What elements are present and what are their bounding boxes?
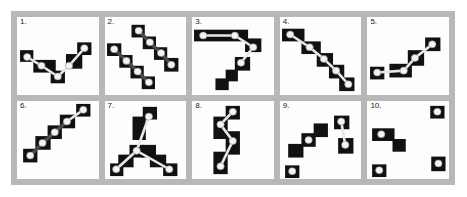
keypoint-node [306, 44, 313, 51]
panel-3[interactable]: 3. [192, 17, 274, 95]
panel-9-scene [280, 101, 362, 179]
keypoint-node [435, 160, 442, 167]
keypoint-node [412, 54, 419, 61]
panel-9[interactable]: 9. [280, 101, 362, 179]
keypoint-node [320, 55, 327, 62]
detection-box [393, 139, 406, 152]
keypoint-node [110, 46, 117, 53]
keypoint-node [341, 141, 348, 148]
panel-6-label: 6. [20, 101, 27, 111]
panel-3-scene [192, 17, 274, 95]
keypoint-node [286, 31, 293, 38]
panel-10-label: 10. [370, 101, 381, 111]
panel-5-scene [367, 17, 449, 95]
keypoint-node [157, 50, 164, 57]
keypoint-node [237, 59, 244, 66]
keypoint-node [400, 67, 407, 74]
panel-6[interactable]: 6. [17, 101, 99, 179]
figure-frame: 1.2.3.4.5.6.7.8.9.10. [11, 11, 455, 185]
keypoint-node [122, 57, 129, 64]
keypoint-node [134, 68, 141, 75]
panel-5-label: 5. [370, 17, 377, 27]
keypoint-node [229, 137, 236, 144]
panel-6-scene [17, 101, 99, 179]
keypoint-node [231, 32, 238, 39]
keypoint-node [39, 139, 46, 146]
keypoint-node [145, 79, 152, 86]
panel-10[interactable]: 10. [367, 101, 449, 179]
keypoint-node [81, 45, 88, 52]
keypoint-node [24, 53, 31, 60]
keypoint-node [434, 108, 441, 115]
keypoint-node [145, 113, 152, 120]
panel-9-label: 9. [283, 101, 290, 111]
keypoint-node [305, 136, 312, 143]
keypoint-node [38, 62, 45, 69]
panel-10-scene [367, 101, 449, 179]
keypoint-node [332, 67, 339, 74]
detection-box [313, 123, 327, 137]
panel-3-label: 3. [195, 17, 202, 27]
panel-2-scene [105, 17, 187, 95]
keypoint-node [135, 27, 142, 34]
detection-box [288, 144, 303, 158]
keypoint-node [112, 166, 119, 173]
keypoint-node [250, 44, 257, 51]
panel-1-scene [17, 17, 99, 95]
panel-8-scene [192, 101, 274, 179]
keypoint-node [337, 118, 344, 125]
panel-5[interactable]: 5. [367, 17, 449, 95]
panel-4[interactable]: 4. [280, 17, 362, 95]
panel-1-label: 1. [20, 17, 27, 27]
keypoint-node [80, 106, 87, 113]
panel-4-label: 4. [283, 17, 290, 27]
keypoint-node [429, 41, 436, 48]
keypoint-node [229, 108, 236, 115]
panel-2-label: 2. [108, 17, 115, 27]
keypoint-node [63, 118, 70, 125]
keypoint-node [378, 131, 385, 138]
panel-7-label: 7. [108, 101, 115, 111]
panel-7-scene [105, 101, 187, 179]
panel-8-label: 8. [195, 101, 202, 111]
keypoint-node [27, 152, 34, 159]
keypoint-node [374, 69, 381, 76]
keypoint-node [165, 166, 172, 173]
keypoint-node [167, 61, 174, 68]
keypoint-node [344, 81, 351, 88]
panel-7[interactable]: 7. [105, 101, 187, 179]
keypoint-node [146, 39, 153, 46]
keypoint-node [288, 168, 295, 175]
panel-2[interactable]: 2. [105, 17, 187, 95]
detection-box [216, 78, 229, 90]
keypoint-node [54, 73, 61, 80]
keypoint-node [51, 129, 58, 136]
keypoint-node [133, 147, 140, 154]
panel-8[interactable]: 8. [192, 101, 274, 179]
keypoint-node [65, 62, 72, 69]
keypoint-node [200, 32, 207, 39]
panel-1[interactable]: 1. [17, 17, 99, 95]
keypoint-node [217, 163, 224, 170]
keypoint-node [217, 121, 224, 128]
panel-4-scene [280, 17, 362, 95]
keypoint-node [376, 167, 383, 174]
